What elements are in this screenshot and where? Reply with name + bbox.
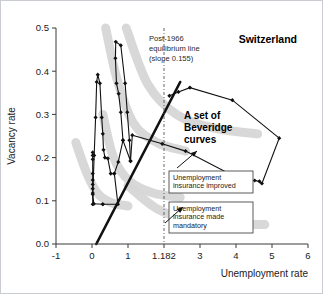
y-axis-title: Vacancy rate — [6, 107, 17, 165]
data-point — [96, 73, 100, 77]
x-tick-label: 1.182 — [152, 250, 176, 261]
y-tick-label: 0.5 — [36, 22, 49, 33]
x-tick-label: 1 — [125, 250, 130, 261]
y-tick-label: 0.4 — [36, 66, 49, 77]
unemployment-insurance-mandatory-line: mandatory — [173, 221, 207, 230]
equilibrium-note-line: Post-1966 — [149, 34, 184, 43]
x-tick-label: 4 — [233, 250, 238, 261]
beveridge-curve-chart: -1011.18234560.00.10.20.30.40.5Vacancy r… — [1, 1, 322, 293]
center-annotation-line: Beveridge — [184, 122, 233, 133]
x-tick-label: -1 — [52, 250, 60, 261]
data-point — [123, 81, 127, 85]
x-tick-label: 5 — [269, 250, 274, 261]
y-tick-label: 0.0 — [36, 238, 49, 249]
x-tick-label: 3 — [197, 250, 202, 261]
x-tick-label: 6 — [305, 250, 310, 261]
data-point — [128, 159, 132, 163]
data-point — [101, 148, 105, 152]
equilibrium-note-line: (slope 0.155) — [149, 54, 194, 63]
data-point — [112, 171, 116, 175]
data-point — [119, 110, 123, 114]
data-point — [121, 138, 125, 142]
x-tick-label: 0 — [89, 250, 94, 261]
unemployment-insurance-improved-line: insurance improved — [173, 181, 236, 190]
center-annotation-line: A set of — [184, 110, 221, 121]
data-point — [94, 115, 98, 119]
country-label: Switzerland — [239, 33, 297, 45]
data-point — [127, 138, 131, 142]
data-point — [130, 133, 134, 137]
data-point — [109, 171, 113, 175]
center-annotation-line: curves — [184, 134, 217, 145]
data-point — [188, 86, 192, 90]
equilibrium-note-line: equilibrium line — [149, 44, 200, 53]
y-tick-label: 0.3 — [36, 109, 49, 120]
y-tick-label: 0.1 — [36, 195, 49, 206]
chart-figure: -1011.18234560.00.10.20.30.40.5Vacancy r… — [0, 0, 323, 294]
y-tick-label: 0.2 — [36, 152, 49, 163]
x-axis-title: Unemployment rate — [221, 268, 309, 279]
